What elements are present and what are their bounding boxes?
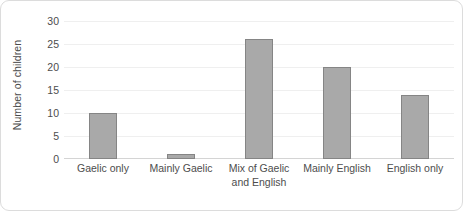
y-axis-title-label: Number of children [11,40,23,131]
y-axis-tick-labels: 051015202530 [29,21,59,159]
bar [401,95,429,159]
x-axis-tick-label-line: Mainly English [298,162,376,176]
x-axis-tick-label-line: Gaelic only [64,162,142,176]
x-axis-tick-label: Gaelic only [64,162,142,176]
y-axis-title: Number of children [7,1,27,169]
y-axis-tick-label: 15 [33,85,59,96]
bar [89,113,117,159]
y-axis-tick-label: 5 [33,131,59,142]
plot-area [64,21,454,159]
bar-slot [376,21,454,159]
bar-slot [64,21,142,159]
bar-slot [298,21,376,159]
x-axis-tick-labels: Gaelic onlyMainly GaelicMix of Gaelicand… [64,162,454,206]
bar-slot [142,21,220,159]
x-axis-tick-label: Mix of Gaelicand English [220,162,298,189]
y-axis-tick-label: 30 [33,16,59,27]
bar-series [64,21,454,159]
bar [245,39,273,159]
bar-slot [220,21,298,159]
x-axis-tick-label-line: and English [220,176,298,190]
bar [167,154,195,159]
bar [323,67,351,159]
y-axis-tick-label: 20 [33,62,59,73]
y-axis-tick-label: 10 [33,108,59,119]
x-axis-tick-label: Mainly Gaelic [142,162,220,176]
x-axis-tick-label: Mainly English [298,162,376,176]
y-axis-tick-label: 25 [33,39,59,50]
y-axis-tick-label: 0 [33,154,59,165]
bar-chart-figure: Number of children 051015202530 Gaelic o… [0,0,463,211]
x-axis-tick-label-line: English only [376,162,454,176]
x-axis-tick-label: English only [376,162,454,176]
x-axis-tick-label-line: Mix of Gaelic [220,162,298,176]
x-axis-tick-label-line: Mainly Gaelic [142,162,220,176]
